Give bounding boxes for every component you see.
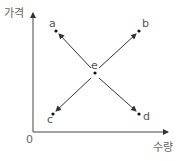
- point-label-b: b: [142, 18, 149, 29]
- point-label-e: e: [91, 60, 98, 71]
- point-label-d: d: [143, 111, 150, 122]
- x-axis-label: 수량: [153, 142, 173, 153]
- arrow-e-to-d: [99, 78, 136, 111]
- arrow-e-to-a: [59, 34, 91, 68]
- origin-label: 0: [26, 134, 33, 145]
- point-d: [137, 112, 140, 115]
- point-b: [137, 29, 140, 32]
- arrow-e-to-c: [56, 78, 91, 111]
- point-label-c: c: [47, 114, 53, 125]
- y-axis-label: 가격: [4, 8, 24, 19]
- arrow-e-to-b: [99, 34, 136, 68]
- point-label-a: a: [49, 18, 56, 29]
